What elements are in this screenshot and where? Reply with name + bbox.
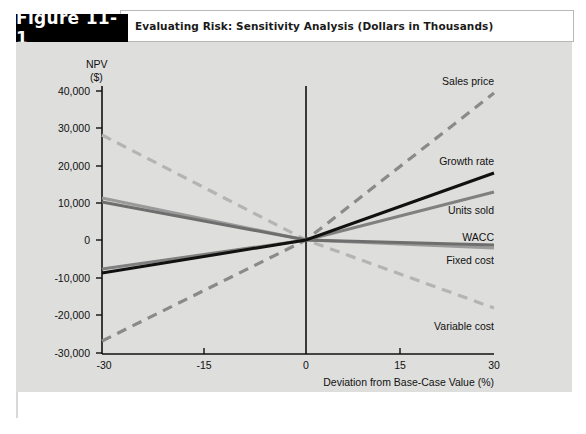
x-tick-label: -15 <box>196 359 211 371</box>
y-tick-label: -20,000 <box>54 309 90 321</box>
x-tick-label: -30 <box>96 359 111 371</box>
series-label-sales-price: Sales price <box>442 75 494 87</box>
series-label-growth-rate: Growth rate <box>439 155 494 167</box>
x-tick-label: 0 <box>303 359 309 371</box>
y-axis-title-line1: NPV <box>86 58 108 70</box>
y-tick-label: 40,000 <box>58 85 90 97</box>
y-tick-label: 0 <box>84 234 90 246</box>
series-label-units-sold: Units sold <box>448 204 494 216</box>
panel-bottom-edge <box>16 392 574 418</box>
y-tick-label: 30,000 <box>58 122 90 134</box>
sensitivity-chart: 40,000 30,000 20,000 10,000 0 -10,000 -2… <box>16 42 572 392</box>
figure-page: Evaluating Risk: Sensitivity Analysis (D… <box>0 0 586 434</box>
y-tick-label: -10,000 <box>54 272 90 284</box>
series-label-variable-cost: Variable cost <box>434 320 494 332</box>
y-tick-label: 20,000 <box>58 160 90 172</box>
x-axis-title: Deviation from Base-Case Value (%) <box>323 376 494 388</box>
y-ticks <box>96 91 102 353</box>
series-line-sales-price <box>102 93 494 341</box>
figure-number-badge: Figure 11-1 <box>16 14 128 42</box>
x-tick-label: 15 <box>394 359 406 371</box>
chart-panel: 40,000 30,000 20,000 10,000 0 -10,000 -2… <box>16 42 572 392</box>
figure-title-box: Evaluating Risk: Sensitivity Analysis (D… <box>120 10 574 42</box>
figure-header: Evaluating Risk: Sensitivity Analysis (D… <box>16 14 572 42</box>
series-label-wacc: WACC <box>462 231 494 243</box>
series-label-fixed-cost: Fixed cost <box>446 254 494 266</box>
y-tick-label: 10,000 <box>58 197 90 209</box>
series-line-variable-cost <box>102 135 494 308</box>
x-ticks <box>204 348 400 354</box>
y-tick-label: -30,000 <box>54 347 90 359</box>
figure-title: Evaluating Risk: Sensitivity Analysis (D… <box>121 20 493 32</box>
y-axis-title-line2: ($) <box>90 71 103 83</box>
series-line-units-sold <box>102 192 494 269</box>
x-tick-label: 30 <box>488 359 500 371</box>
series-line-growth-rate <box>102 173 494 273</box>
